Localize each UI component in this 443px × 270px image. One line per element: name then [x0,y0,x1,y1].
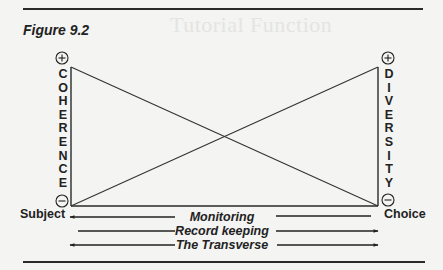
left-minus-icon [56,195,68,207]
right-minus-icon [382,194,394,206]
subject-pole-label: Subject [20,207,65,221]
coherence-label: C O H E R E N C E [56,68,70,190]
bottom-rule [23,261,425,263]
monitoring-label: Monitoring [172,210,272,224]
transverse-label: The Transverse [172,238,272,252]
record-keeping-label: Record keeping [172,224,272,238]
right-plus-icon [382,52,394,64]
left-plus-icon [56,52,68,64]
choice-pole-label: Choice [384,207,426,221]
diversity-label: D I V E R S I T Y [382,68,396,190]
